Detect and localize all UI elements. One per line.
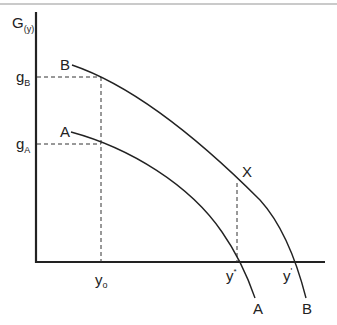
y-axis-label: G(y)	[12, 14, 34, 34]
y0-label: yo	[95, 271, 108, 290]
production-possibility-diagram: G(y) gB gA B A X yo y* y' A B	[0, 0, 337, 325]
curve-B-top-label: B	[60, 56, 70, 73]
point-X-label: X	[242, 163, 252, 180]
curve-A-bottom-label: A	[253, 300, 263, 317]
y-prime-label: y'	[283, 266, 293, 284]
curve-A-top-label: A	[60, 123, 70, 140]
y-star-label: y*	[226, 267, 237, 284]
gB-tick-label: gB	[16, 68, 30, 88]
curve-B-bottom-label: B	[302, 300, 312, 317]
gA-tick-label: gA	[16, 135, 30, 155]
